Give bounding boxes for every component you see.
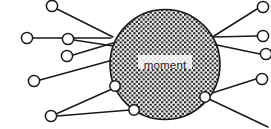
rim-right-lower xyxy=(200,92,210,102)
edge-left-inner-lower xyxy=(73,43,113,55)
node-top-left xyxy=(46,0,57,11)
diagram-canvas: moment xyxy=(0,0,271,129)
edge-right-upper xyxy=(213,36,257,37)
node-bottom-left xyxy=(45,110,56,121)
edge-right-top xyxy=(214,9,257,36)
edge-bottom-left-to-rim-bottom xyxy=(57,110,130,116)
edge-top-left xyxy=(57,9,113,37)
hub-label: moment xyxy=(144,59,187,71)
node-left-inner-lower xyxy=(61,50,72,61)
node-left-upper xyxy=(21,32,32,43)
edge-rim-right-out xyxy=(209,99,268,127)
node-right-lower xyxy=(256,73,267,84)
edge-left-lower xyxy=(40,60,113,80)
node-left-inner-upper xyxy=(62,33,73,44)
node-right-upper xyxy=(257,30,268,41)
node-right-mid xyxy=(260,48,271,59)
moment-diagram: moment xyxy=(0,0,271,129)
moment-hub: moment xyxy=(110,10,220,120)
rim-left-lower xyxy=(110,81,120,91)
node-right-top xyxy=(257,1,268,12)
rim-bottom xyxy=(129,105,139,115)
node-left-lower xyxy=(28,75,39,86)
edge-bottom-left-to-rim-left xyxy=(56,89,112,114)
